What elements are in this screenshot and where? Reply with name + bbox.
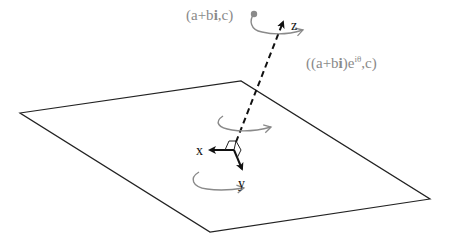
complex-plane: [20, 81, 430, 232]
y-axis: [234, 150, 242, 169]
y-axis-label: y: [238, 176, 245, 191]
rotated-point-label: ((a+bi)eiθ,c): [306, 54, 377, 72]
diagram-canvas: z x y (a+bi,c) ((a+bi)eiθ,c): [0, 0, 451, 245]
x-axis-label: x: [196, 143, 203, 158]
z-axis-label: z: [291, 18, 297, 33]
point-dot: [251, 11, 257, 17]
rotation-arrow-bottom: [193, 172, 244, 190]
initial-point-label: (a+bi,c): [186, 7, 233, 24]
right-angle-marker-inner: [234, 141, 236, 150]
